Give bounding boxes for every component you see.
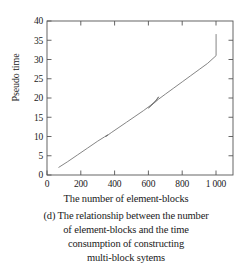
- y-tick-labels: 0 5 10 15 20 25 30 35 40: [34, 16, 44, 180]
- x-tick-label: 800: [175, 179, 189, 189]
- y-axis-title: Pseudo time: [10, 33, 21, 123]
- y-tick-label: 10: [34, 132, 44, 142]
- caption-line-4: multi-block sytems: [0, 251, 252, 265]
- x-tick-label: 1 000: [206, 179, 227, 189]
- x-tick-label: 200: [74, 179, 88, 189]
- y-tick-label: 15: [34, 113, 44, 123]
- caption-line-1: (d) The relationship between the number: [0, 209, 252, 223]
- y-tick-label: 5: [38, 151, 43, 161]
- plot-frame: [47, 21, 233, 175]
- figure-container: 0 5 10 15 20 25 30 35 40 0 200 400 600 8…: [0, 0, 252, 269]
- chart-svg: 0 5 10 15 20 25 30 35 40 0 200 400 600 8…: [0, 0, 252, 196]
- figure-caption: (d) The relationship between the number …: [0, 209, 252, 265]
- caption-line-3: consumption of constructing: [0, 237, 252, 251]
- x-axis-title: The number of element-blocks: [0, 192, 252, 205]
- y-tick-label: 0: [38, 170, 43, 180]
- x-tick-label: 600: [142, 179, 156, 189]
- y-tick-label: 30: [34, 55, 44, 65]
- x-tick-label: 0: [45, 179, 50, 189]
- caption-line-2: of element-blocks and the time: [0, 223, 252, 237]
- y-tick-label: 35: [34, 36, 44, 46]
- y-tick-label: 20: [34, 93, 44, 103]
- plot-area: 0 5 10 15 20 25 30 35 40 0 200 400 600 8…: [0, 0, 252, 196]
- y-tick-label: 40: [34, 16, 44, 26]
- y-tick-label: 25: [34, 74, 44, 84]
- x-tick-labels: 0 200 400 600 800 1 000: [45, 179, 227, 189]
- x-tick-label: 400: [108, 179, 122, 189]
